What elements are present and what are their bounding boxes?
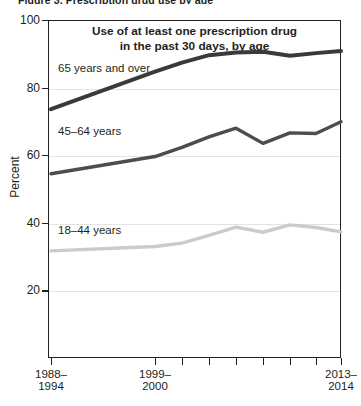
x-tick-mark bbox=[155, 358, 156, 365]
x-tick-mark bbox=[182, 358, 183, 365]
x-tick-label-line-1: 1988– bbox=[16, 368, 86, 380]
series-line-0 bbox=[51, 51, 341, 109]
x-tick-mark bbox=[290, 358, 291, 365]
series-label-65-and-over: 65 years and over bbox=[58, 62, 150, 74]
x-tick-label: 1988–1994 bbox=[16, 368, 86, 392]
series-lines bbox=[0, 0, 361, 406]
x-tick-mark bbox=[236, 358, 237, 365]
x-tick-label: 1999–2000 bbox=[120, 368, 190, 392]
x-tick-label-line-1: 1999– bbox=[120, 368, 190, 380]
x-tick-mark bbox=[209, 358, 210, 365]
x-tick-label-line-2: 2014 bbox=[306, 380, 361, 392]
x-tick-mark bbox=[263, 358, 264, 365]
series-label-45-64: 45–64 years bbox=[58, 125, 121, 137]
x-tick-mark bbox=[316, 358, 317, 365]
x-tick-mark bbox=[341, 358, 342, 365]
series-label-18-44: 18–44 years bbox=[58, 224, 121, 236]
x-tick-label-line-1: 2013– bbox=[306, 368, 361, 380]
x-tick-mark bbox=[51, 358, 52, 365]
x-tick-label-line-2: 1994 bbox=[16, 380, 86, 392]
x-tick-label: 2013–2014 bbox=[306, 368, 361, 392]
x-tick-label-line-2: 2000 bbox=[120, 380, 190, 392]
chart-figure: Figure 3. Prescription drug use by age P… bbox=[0, 0, 361, 406]
